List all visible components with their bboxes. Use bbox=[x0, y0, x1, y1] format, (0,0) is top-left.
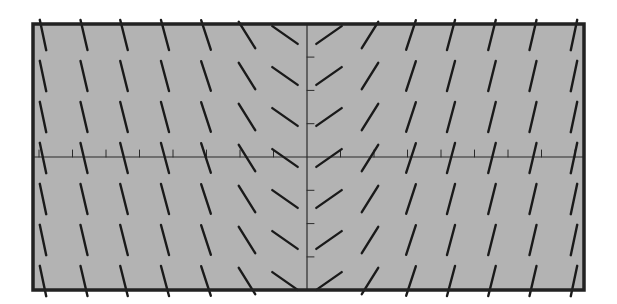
slope-field-plot bbox=[0, 0, 617, 304]
